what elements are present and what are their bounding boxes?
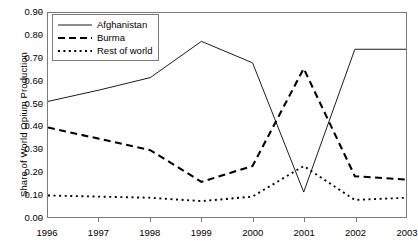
x-tick-mark — [98, 218, 99, 222]
legend-item-burma: Burma — [57, 31, 152, 44]
legend-label: Rest of world — [93, 45, 152, 57]
legend-label: Afghanistan — [93, 19, 147, 31]
x-tick-label: 2002 — [345, 227, 366, 239]
x-tick-label: 2003 — [396, 227, 417, 239]
y-tick-mark — [39, 35, 43, 36]
series-line-rest-of-world — [48, 166, 406, 201]
y-tick-mark — [39, 104, 43, 105]
x-tick-mark — [356, 218, 357, 222]
y-tick-mark — [39, 126, 43, 127]
y-tick-mark — [39, 12, 43, 13]
y-tick-mark — [39, 149, 43, 150]
y-tick-mark — [39, 172, 43, 173]
dashed-line-swatch-icon — [57, 32, 93, 44]
x-tick-mark — [201, 218, 202, 222]
y-axis-tick-labels: 0.000.100.200.300.400.500.600.700.800.90 — [16, 0, 43, 249]
dotted-line-swatch-icon — [57, 45, 93, 57]
y-tick-mark — [39, 195, 43, 196]
y-tick-mark — [39, 58, 43, 59]
series-line-burma — [48, 69, 406, 182]
chart-legend: Afghanistan Burma Rest of world — [52, 14, 159, 61]
legend-label: Burma — [93, 32, 125, 44]
x-tick-label: 1996 — [36, 227, 57, 239]
x-tick-mark — [150, 218, 151, 222]
legend-item-rest-of-world: Rest of world — [57, 44, 152, 57]
x-tick-label: 2000 — [242, 227, 263, 239]
y-tick-mark — [39, 81, 43, 82]
legend-item-afghanistan: Afghanistan — [57, 18, 152, 31]
x-tick-label: 1998 — [139, 227, 160, 239]
x-tick-label: 2001 — [294, 227, 315, 239]
x-tick-label: 1997 — [88, 227, 109, 239]
x-tick-label: 1999 — [191, 227, 212, 239]
x-tick-mark — [253, 218, 254, 222]
x-tick-mark — [304, 218, 305, 222]
y-tick-mark — [39, 218, 43, 219]
solid-line-swatch-icon — [57, 19, 93, 31]
x-axis-tick-labels: 19961997199819992000200120022003 — [47, 222, 407, 240]
